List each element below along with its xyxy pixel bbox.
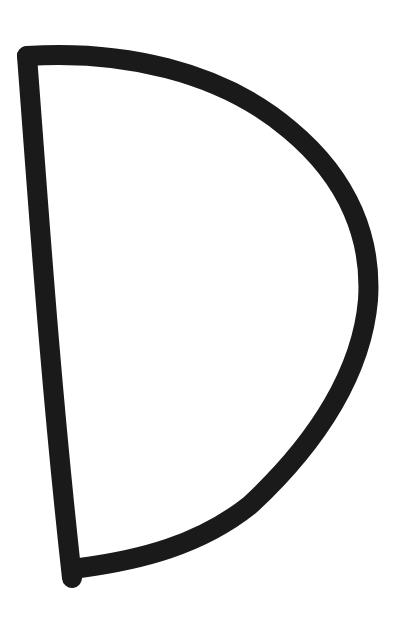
- letter-d-drawing: [0, 0, 408, 632]
- drawing-canvas: [0, 0, 408, 632]
- letter-d-bowl: [27, 55, 368, 568]
- letter-d-stem: [27, 56, 72, 578]
